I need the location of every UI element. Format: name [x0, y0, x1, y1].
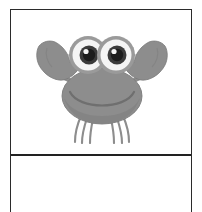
page-root	[0, 0, 202, 212]
illustration-cell	[11, 10, 191, 156]
caption-cell	[11, 156, 191, 212]
crab-illustration	[25, 24, 179, 144]
crab-icon	[25, 24, 179, 144]
bordered-table	[10, 9, 192, 212]
right-eye	[97, 36, 135, 74]
